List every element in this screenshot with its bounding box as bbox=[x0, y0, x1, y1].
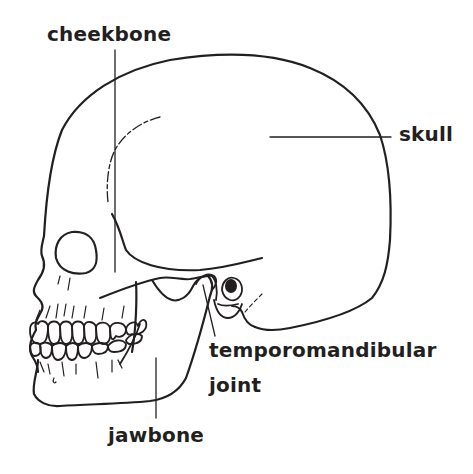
skull-base-outline bbox=[232, 306, 255, 327]
mastoid-detail bbox=[245, 294, 262, 312]
temporomandibular-joint-label-line2: joint bbox=[209, 375, 261, 395]
ear-canal bbox=[225, 279, 237, 293]
skull-diagram: cheekbone skull temporomandibular joint … bbox=[0, 0, 473, 474]
upper-teeth bbox=[30, 320, 146, 344]
mandible-hatching bbox=[40, 360, 122, 383]
face-profile-outline bbox=[34, 236, 44, 330]
skull-illustration bbox=[0, 0, 473, 474]
cheekbone-label: cheekbone bbox=[47, 24, 171, 44]
tmj-leader-line bbox=[203, 285, 215, 336]
eye-socket bbox=[56, 232, 97, 274]
zygomatic-arch bbox=[112, 214, 262, 270]
maxilla-hatching bbox=[36, 276, 124, 320]
skull-label: skull bbox=[399, 124, 453, 144]
jawbone-label: jawbone bbox=[108, 425, 204, 445]
temporomandibular-joint-label-line1: temporomandibular bbox=[209, 340, 437, 360]
